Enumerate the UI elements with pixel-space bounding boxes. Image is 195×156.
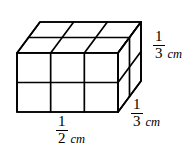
- prism-front-face: [17, 53, 118, 112]
- unit-label-cm: cm: [71, 133, 86, 147]
- rectangular-prism-drawing: [0, 0, 195, 156]
- dimension-label-height: 1 3 cm: [153, 29, 182, 62]
- fraction-denominator: 3: [153, 46, 165, 61]
- fraction-numerator: 1: [131, 97, 143, 112]
- fraction-numerator: 1: [153, 29, 165, 44]
- fraction-denominator: 3: [131, 114, 143, 129]
- geometry-figure: 1 2 cm 1 3 cm 1 3 cm: [0, 0, 195, 156]
- fraction-one-third: 1 3: [153, 29, 165, 62]
- fraction-numerator: 1: [56, 114, 68, 129]
- dimension-label-depth: 1 3 cm: [131, 97, 160, 130]
- unit-label-cm: cm: [168, 48, 183, 62]
- dimension-label-width: 1 2 cm: [56, 114, 85, 147]
- fraction-denominator: 2: [56, 131, 68, 146]
- fraction-one-half: 1 2: [56, 114, 68, 147]
- unit-label-cm: cm: [146, 116, 161, 130]
- fraction-one-third: 1 3: [131, 97, 143, 130]
